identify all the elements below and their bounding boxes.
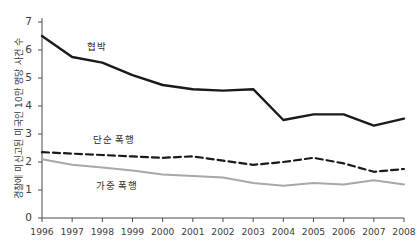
y-axis-tick-label: 6 — [16, 43, 32, 55]
x-axis-tick-label: 2002 — [207, 226, 239, 237]
series-label: 단순 폭행 — [93, 132, 134, 146]
x-axis-tick-label: 2004 — [267, 226, 299, 237]
x-axis-tick-label: 2006 — [328, 226, 360, 237]
series-label: 협박 — [87, 39, 106, 53]
x-axis-tick-label: 2008 — [388, 226, 420, 237]
y-axis-tick-label: 0 — [16, 211, 32, 223]
y-axis-tick-label: 3 — [16, 127, 32, 139]
y-axis-tick-label: 7 — [16, 15, 32, 27]
series-label: 가중 폭행 — [96, 178, 137, 192]
y-axis-tick-label: 4 — [16, 99, 32, 111]
x-axis-tick-label: 2001 — [177, 226, 209, 237]
x-axis-tick-label: 2000 — [147, 226, 179, 237]
series-line — [42, 152, 404, 172]
x-axis-tick-label: 1996 — [26, 226, 58, 237]
y-axis-tick-label: 2 — [16, 155, 32, 167]
x-axis-tick-label: 2005 — [298, 226, 330, 237]
x-axis-tick-label: 1997 — [56, 226, 88, 237]
x-axis-tick-label: 2003 — [237, 226, 269, 237]
x-axis-tick-label: 1999 — [117, 226, 149, 237]
series-group — [42, 36, 404, 186]
x-axis-tick-label: 1998 — [86, 226, 118, 237]
y-axis-tick-label: 5 — [16, 71, 32, 83]
y-axis-tick-label: 1 — [16, 183, 32, 195]
x-axis-tick-label: 2007 — [358, 226, 390, 237]
